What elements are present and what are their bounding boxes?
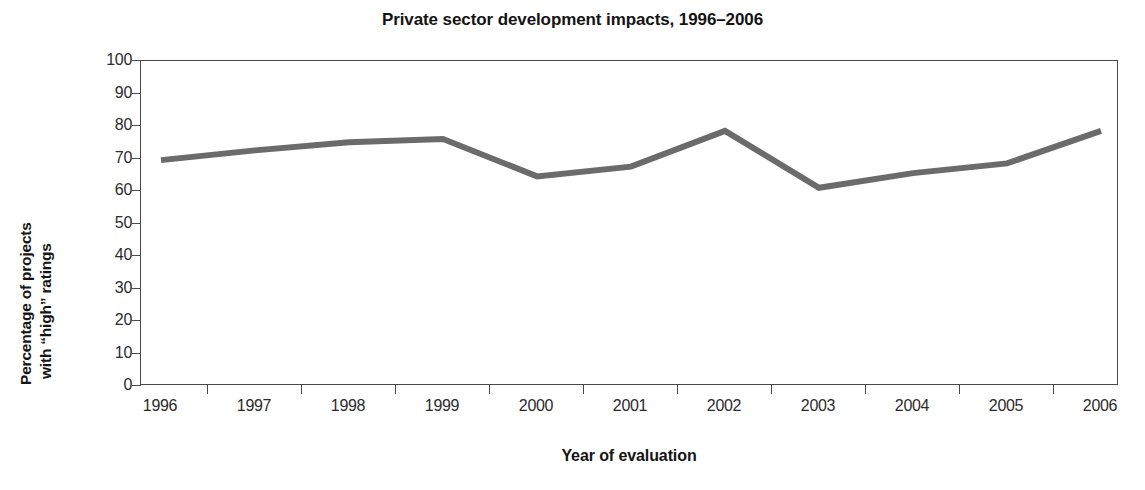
y-axis-title-line-1: Percentage of projects [17, 222, 35, 385]
y-axis-title: Percentage of projects with “high” ratin… [18, 60, 70, 385]
x-axis-tick-label: 2005 [961, 397, 1051, 415]
x-axis-tick-mark [301, 385, 302, 394]
x-axis-tick-mark [395, 385, 396, 394]
chart-title: Private sector development impacts, 1996… [0, 10, 1145, 30]
chart-figure: Private sector development impacts, 1996… [0, 0, 1145, 490]
y-axis-tick-label: 30 [88, 279, 132, 297]
x-axis-tick-mark [1053, 385, 1054, 394]
y-axis-tick-labels: 0102030405060708090100 [88, 60, 132, 385]
x-axis-tick-label: 2003 [773, 397, 863, 415]
y-axis-tick-label: 60 [88, 181, 132, 199]
x-axis-tick-label: 1998 [303, 397, 393, 415]
x-axis-tick-label: 1996 [115, 397, 205, 415]
y-axis-tick-label: 90 [88, 84, 132, 102]
x-axis-tick-mark [959, 385, 960, 394]
y-axis-tick-label: 40 [88, 246, 132, 264]
data-line-chart [141, 61, 1119, 386]
x-axis-tick-mark [583, 385, 584, 394]
x-axis-tick-mark [865, 385, 866, 394]
y-axis-tick-label: 0 [88, 376, 132, 394]
y-axis-tick-label: 80 [88, 116, 132, 134]
x-axis-tick-label: 2001 [585, 397, 675, 415]
plot-area [140, 60, 1118, 385]
x-axis-tick-label: 2000 [491, 397, 581, 415]
y-axis-tick-label: 20 [88, 311, 132, 329]
y-axis-title-line-2: with “high” ratings [37, 243, 55, 379]
y-axis-tick-label: 100 [88, 51, 132, 69]
x-axis-tick-label: 2002 [679, 397, 769, 415]
y-axis-tick-mark [132, 385, 141, 386]
x-axis-tick-mark [771, 385, 772, 394]
x-axis-tick-label: 2006 [1055, 397, 1145, 415]
x-axis-title: Year of evaluation [140, 447, 1118, 465]
y-axis-tick-label: 70 [88, 149, 132, 167]
x-axis-tick-label: 1997 [209, 397, 299, 415]
y-axis-tick-label: 10 [88, 344, 132, 362]
y-axis-tick-label: 50 [88, 214, 132, 232]
x-axis-tick-mark [207, 385, 208, 394]
data-series-line [161, 131, 1101, 188]
x-axis-tick-mark [677, 385, 678, 394]
x-axis-tick-label: 1999 [397, 397, 487, 415]
x-axis-tick-mark [489, 385, 490, 394]
x-axis-tick-label: 2004 [867, 397, 957, 415]
